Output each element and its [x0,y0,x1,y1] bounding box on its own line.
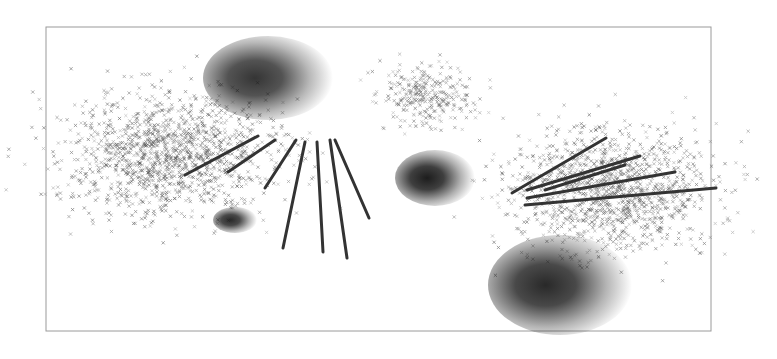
small-left-blob [213,207,257,233]
center-blob [395,150,475,206]
bottom-right-blob [488,235,632,335]
diagram-canvas [0,0,777,359]
top-blob [203,36,333,120]
